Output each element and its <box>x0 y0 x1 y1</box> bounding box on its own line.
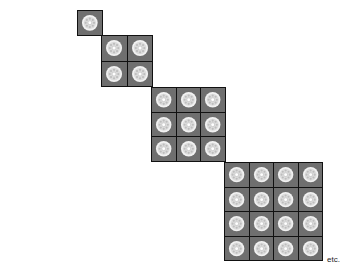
gem-tile <box>128 62 153 87</box>
gem-icon <box>252 239 271 258</box>
gem-icon <box>276 190 295 209</box>
gem-tile <box>225 212 249 236</box>
gem-icon <box>301 214 320 233</box>
gem-icon <box>252 165 271 184</box>
gem-icon <box>301 190 320 209</box>
gem-tile <box>250 188 274 212</box>
gem-tile <box>299 188 323 212</box>
gem-icon <box>227 165 246 184</box>
gem-icon <box>252 190 271 209</box>
gem-tile <box>78 11 102 35</box>
gem-icon <box>252 214 271 233</box>
gem-icon <box>179 90 198 109</box>
grid-1x1 <box>77 10 103 36</box>
gem-tile <box>274 188 298 212</box>
gem-tile <box>177 88 201 112</box>
gem-tile <box>201 137 225 161</box>
gem-icon <box>276 214 295 233</box>
gem-icon <box>179 139 198 158</box>
gem-tile <box>299 212 323 236</box>
gem-tile <box>250 237 274 261</box>
gem-icon <box>203 90 222 109</box>
gem-tile <box>102 62 127 87</box>
gem-tile <box>299 163 323 187</box>
gem-icon <box>276 239 295 258</box>
gem-icon <box>154 139 173 158</box>
gem-icon <box>301 165 320 184</box>
gem-icon <box>301 239 320 258</box>
gem-icon <box>130 64 150 84</box>
gem-icon <box>104 64 124 84</box>
gem-tile <box>152 137 176 161</box>
gem-tile <box>250 163 274 187</box>
gem-tile <box>201 113 225 137</box>
gem-icon <box>154 115 173 134</box>
gem-tile <box>274 163 298 187</box>
gem-tile <box>299 237 323 261</box>
gem-tile <box>177 113 201 137</box>
gem-icon <box>154 90 173 109</box>
gem-tile <box>152 88 176 112</box>
gem-icon <box>276 165 295 184</box>
grid-3x3 <box>151 87 226 162</box>
grid-2x2 <box>101 35 153 87</box>
gem-tile <box>225 188 249 212</box>
gem-tile <box>128 36 153 61</box>
gem-tile <box>250 212 274 236</box>
gem-tile <box>225 237 249 261</box>
gem-tile <box>225 163 249 187</box>
gem-icon <box>227 239 246 258</box>
gem-icon <box>227 190 246 209</box>
gem-icon <box>130 38 150 58</box>
gem-icon <box>203 139 222 158</box>
gem-tile <box>152 113 176 137</box>
gem-icon <box>203 115 222 134</box>
gem-tile <box>201 88 225 112</box>
etc-caption: etc. <box>327 255 340 264</box>
gem-tile <box>274 212 298 236</box>
gem-tile <box>177 137 201 161</box>
gem-tile <box>102 36 127 61</box>
gem-icon <box>227 214 246 233</box>
gem-icon <box>179 115 198 134</box>
gem-icon <box>104 38 124 58</box>
gem-icon <box>80 13 100 33</box>
gem-tile <box>274 237 298 261</box>
grid-4x4 <box>224 162 323 261</box>
